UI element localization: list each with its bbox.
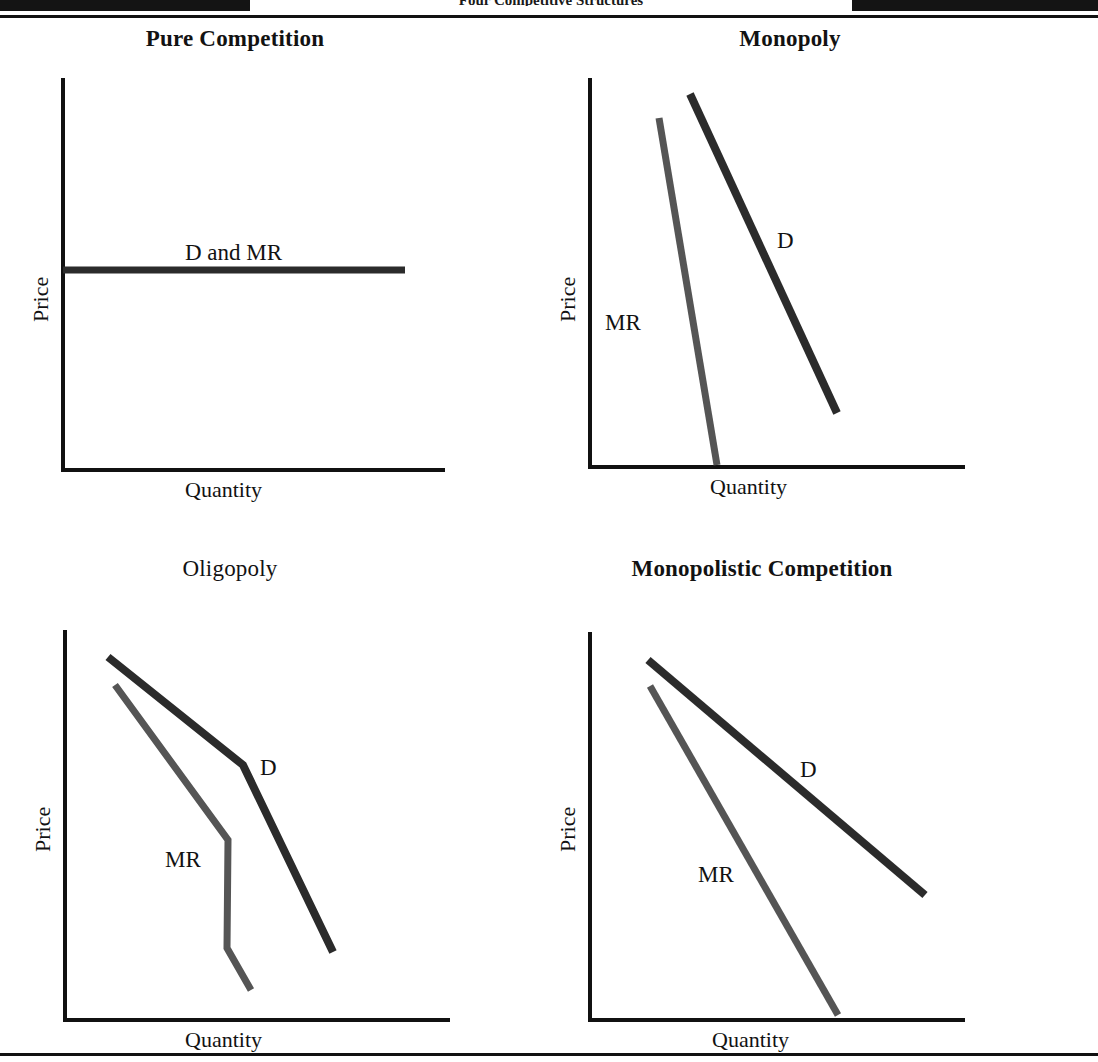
y-axis-label: Price: [555, 277, 581, 322]
y-axis-label: Price: [555, 807, 581, 852]
curve-demand: [108, 657, 333, 952]
chart-plot-pure-competition: [0, 22, 480, 522]
curve-marginal-revenue: [650, 686, 838, 1015]
chart-panel-pure-competition: Pure Competition Price Quantity D and MR: [0, 22, 480, 522]
curve-marginal-revenue: [115, 685, 251, 990]
chart-panel-oligopoly: Oligopoly Price Quantity D MR: [0, 552, 480, 1052]
header-decoration-bar-right: [852, 0, 1098, 11]
y-axis-label: Price: [28, 277, 54, 322]
x-axis-label: Quantity: [185, 477, 262, 503]
chart-plot-monopoly: [480, 22, 980, 522]
x-axis-label: Quantity: [185, 1027, 262, 1053]
curve-label-demand: D: [800, 757, 817, 783]
header-decoration-bar-left: [0, 0, 250, 11]
x-axis-label: Quantity: [712, 1027, 789, 1053]
header-divider-rule: [0, 15, 1098, 18]
curve-demand: [690, 94, 837, 413]
curve-label-demand: D: [260, 755, 277, 781]
footer-divider-rule: [0, 1053, 1098, 1056]
curve-demand: [648, 660, 925, 895]
chart-plot-monopolistic-competition: [480, 552, 980, 1052]
y-axis-label: Price: [30, 807, 56, 852]
curve-label-marginal-revenue: MR: [165, 847, 201, 873]
curve-label-demand-and-mr: D and MR: [185, 240, 282, 266]
curve-marginal-revenue: [659, 118, 717, 465]
curve-label-marginal-revenue: MR: [698, 862, 734, 888]
chart-plot-oligopoly: [0, 552, 480, 1052]
chart-panel-monopolistic-competition: Monopolistic Competition Price Quantity …: [480, 552, 980, 1052]
page-header-title: Four Competitive Structures: [250, 0, 852, 6]
curve-label-demand: D: [777, 228, 794, 254]
curve-label-marginal-revenue: MR: [605, 310, 641, 336]
chart-panel-monopoly: Monopoly Price Quantity D MR: [480, 22, 980, 522]
x-axis-label: Quantity: [710, 474, 787, 500]
